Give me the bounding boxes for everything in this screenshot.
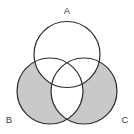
shaded-region	[0, 0, 134, 134]
venn-diagram-figure: A B C	[0, 0, 134, 134]
set-label-b: B	[6, 114, 12, 125]
set-label-a: A	[64, 5, 71, 16]
venn-diagram-canvas: A B C	[0, 0, 134, 134]
set-label-c: C	[122, 114, 129, 125]
